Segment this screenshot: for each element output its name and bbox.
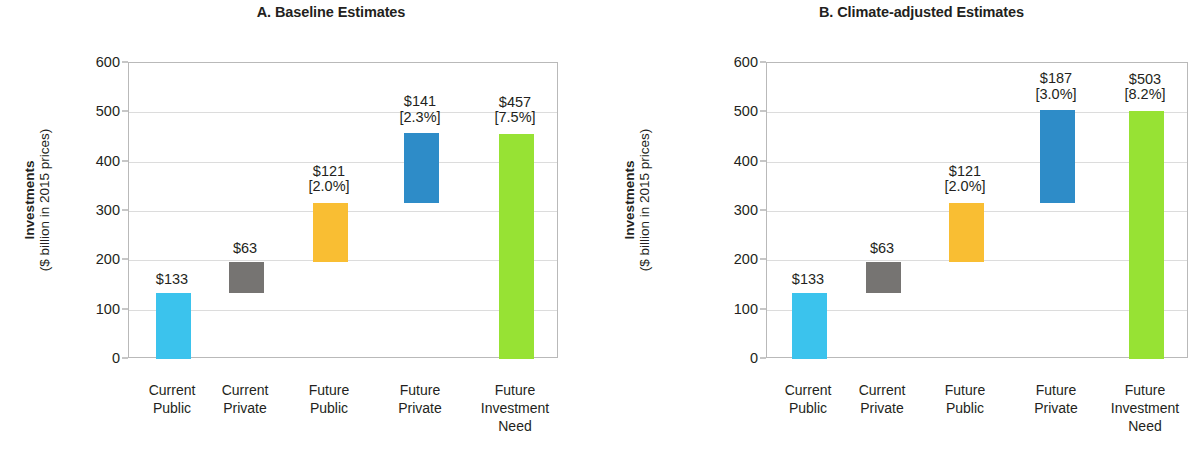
bar-value-label: $187[3.0%] (1035, 71, 1076, 102)
bar-value-amount: $503 (1129, 71, 1161, 87)
bar-current-public[interactable] (792, 293, 827, 359)
y-axis-tick-label: 400 (4, 153, 120, 169)
category-label-line: Public (945, 399, 985, 417)
y-axis-tick-mark (122, 111, 128, 112)
y-axis-tick-label: 0 (642, 350, 758, 366)
category-label-line: Current (859, 381, 906, 399)
category-label-line: Current (222, 381, 269, 399)
bar-value-percent: [7.5%] (494, 110, 535, 126)
y-axis-tick-mark (760, 160, 766, 161)
category-label-line: Private (398, 399, 442, 417)
bar-value-amount: $141 (404, 93, 436, 109)
category-label-line: Investment (1111, 399, 1179, 417)
bar-value-percent: [8.2%] (1124, 87, 1165, 103)
panel-a-title: A. Baseline Estimates (0, 4, 600, 20)
y-axis-tick-label: 100 (642, 301, 758, 317)
y-axis-tick-label: 300 (4, 202, 120, 218)
bar-value-amount: $457 (499, 94, 531, 110)
y-axis-tick-label: 100 (4, 301, 120, 317)
y-axis-tick-label: 600 (4, 54, 120, 70)
x-axis-category-label: FutureInvestmentNeed (1111, 381, 1179, 436)
bar-future-public[interactable] (313, 203, 348, 263)
y-axis-tick-label: 500 (4, 103, 120, 119)
bar-value-label: $63 (233, 241, 257, 257)
y-axis-tick-mark (122, 62, 128, 63)
y-axis-tick-mark (122, 160, 128, 161)
bar-value-amount: $63 (870, 240, 894, 256)
category-label-line: Public (309, 399, 349, 417)
category-label-line: Private (222, 399, 269, 417)
y-axis-tick-mark (760, 111, 766, 112)
category-label-line: Need (1111, 417, 1179, 435)
x-axis-category-label: FutureInvestmentNeed (481, 381, 549, 436)
bar-value-label: $503[8.2%] (1124, 72, 1165, 103)
panel-b-title: B. Climate-adjusted Estimates (600, 4, 1201, 20)
bar-value-amount: $63 (233, 240, 257, 256)
category-label-line: Current (785, 381, 832, 399)
y-axis-title-line1: Investments (622, 50, 637, 350)
bar-value-label: $63 (870, 241, 894, 257)
y-axis-tick-label: 200 (642, 251, 758, 267)
bar-value-amount: $121 (313, 163, 345, 179)
y-axis-tick-label: 0 (4, 350, 120, 366)
gridline (129, 112, 557, 113)
bar-future-public[interactable] (949, 203, 984, 263)
bar-current-private[interactable] (866, 262, 901, 293)
x-axis-category-label: CurrentPublic (149, 381, 196, 417)
category-label-line: Private (1034, 399, 1078, 417)
bar-current-public[interactable] (156, 293, 191, 359)
category-label-line: Current (149, 381, 196, 399)
x-axis-category-label: CurrentPrivate (859, 381, 906, 417)
y-axis-tick-mark (760, 308, 766, 309)
bar-future-private[interactable] (1040, 110, 1075, 202)
x-axis-category-label: CurrentPublic (785, 381, 832, 417)
bar-future-investment-need[interactable] (1129, 111, 1164, 359)
bar-future-investment-need[interactable] (499, 134, 534, 359)
y-axis-tick-label: 300 (642, 202, 758, 218)
y-axis-tick-mark (760, 210, 766, 211)
y-axis-tick-mark (122, 358, 128, 359)
y-axis-tick-mark (122, 210, 128, 211)
y-axis-tick-mark (122, 308, 128, 309)
x-axis-category-label: FuturePrivate (1034, 381, 1078, 417)
category-label-line: Need (481, 417, 549, 435)
y-axis-tick-mark (760, 62, 766, 63)
category-label-line: Future (398, 381, 442, 399)
x-axis-category-label: CurrentPrivate (222, 381, 269, 417)
y-axis-tick-label: 200 (4, 251, 120, 267)
bar-value-amount: $133 (792, 271, 824, 287)
y-axis-tick-label: 600 (642, 54, 758, 70)
bar-future-private[interactable] (404, 133, 439, 203)
waterfall-chart-figure: A. Baseline Estimates Investments ($ bil… (0, 0, 1201, 449)
category-label-line: Public (149, 399, 196, 417)
category-label-line: Investment (481, 399, 549, 417)
category-label-line: Future (945, 381, 985, 399)
panel-a-baseline-estimates: A. Baseline Estimates Investments ($ bil… (0, 0, 600, 449)
x-axis-category-label: FuturePublic (309, 381, 349, 417)
category-label-line: Future (481, 381, 549, 399)
gridline (129, 310, 557, 311)
y-axis-tick-mark (122, 259, 128, 260)
bar-value-amount: $133 (156, 271, 188, 287)
bar-value-label: $133 (156, 272, 188, 288)
y-axis-tick-mark (760, 358, 766, 359)
bar-value-label: $121[2.0%] (308, 164, 349, 195)
y-axis-tick-label: 500 (642, 103, 758, 119)
x-axis-category-label: FuturePublic (945, 381, 985, 417)
bar-value-label: $141[2.3%] (399, 94, 440, 125)
category-label-line: Future (1111, 381, 1179, 399)
bar-value-label: $457[7.5%] (494, 95, 535, 126)
bar-value-amount: $187 (1040, 70, 1072, 86)
category-label-line: Future (309, 381, 349, 399)
bar-value-label: $121[2.0%] (944, 164, 985, 195)
bar-value-percent: [3.0%] (1035, 87, 1076, 103)
bar-value-percent: [2.0%] (308, 179, 349, 195)
bar-current-private[interactable] (229, 262, 264, 293)
bar-value-label: $133 (792, 272, 824, 288)
bar-value-percent: [2.0%] (944, 179, 985, 195)
x-axis-category-label: FuturePrivate (398, 381, 442, 417)
bar-value-amount: $121 (949, 163, 981, 179)
y-axis-tick-mark (760, 259, 766, 260)
bar-value-percent: [2.3%] (399, 110, 440, 126)
panel-b-plot-area (766, 62, 1188, 358)
